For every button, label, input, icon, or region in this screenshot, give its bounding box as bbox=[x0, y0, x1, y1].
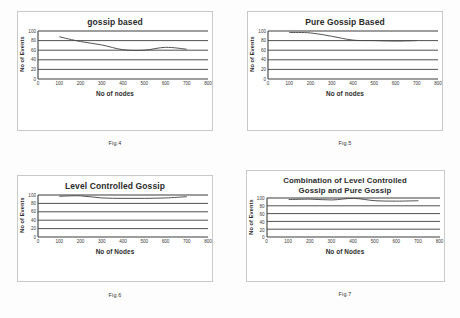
x-tick-label: 300 bbox=[98, 239, 106, 244]
x-axis-label: No of nodes bbox=[248, 90, 442, 97]
figure-caption: Fig.6 bbox=[109, 292, 122, 298]
y-axis-label: No of Events bbox=[19, 34, 25, 74]
x-tick-labels: 0100200300400500600700800 bbox=[247, 238, 446, 247]
figure-caption: Fig.5 bbox=[339, 140, 352, 146]
x-tick-label: 600 bbox=[392, 239, 400, 244]
chart-title: Combination of Level Controlled Gossip a… bbox=[247, 171, 444, 195]
plot-canvas: 0204060801000100200300400500600700800No … bbox=[18, 28, 214, 90]
x-tick-label: 700 bbox=[413, 81, 421, 86]
x-axis-label: No of Nodes bbox=[247, 248, 444, 255]
x-axis-label: No of Nodes bbox=[18, 248, 212, 255]
plot-area-wrapper: 0204060801000100200300400500600700800No … bbox=[248, 28, 442, 90]
x-tick-label: 200 bbox=[306, 239, 314, 244]
y-tick-label: 40 bbox=[31, 57, 36, 62]
x-tick-label: 0 bbox=[265, 239, 268, 244]
x-tick-label: 100 bbox=[55, 81, 63, 86]
x-tick-label: 400 bbox=[349, 239, 357, 244]
plot-canvas: 0204060801000100200300400500600700800No … bbox=[248, 28, 444, 90]
y-tick-label: 100 bbox=[258, 28, 266, 33]
y-tick-label: 60 bbox=[259, 212, 264, 217]
x-tick-label: 500 bbox=[371, 239, 379, 244]
x-tick-labels: 0100200300400500600700800 bbox=[18, 238, 214, 247]
x-tick-label: 400 bbox=[349, 81, 357, 86]
x-tick-label: 600 bbox=[162, 81, 170, 86]
plot-area-wrapper: 0204060801000100200300400500600700800No … bbox=[18, 28, 212, 90]
figure-cell-4: Combination of Level Controlled Gossip a… bbox=[230, 159, 460, 318]
plot-area-wrapper: 0204060801000100200300400500600700800No … bbox=[247, 195, 444, 248]
x-tick-label: 500 bbox=[140, 239, 148, 244]
y-tick-label: 20 bbox=[259, 227, 264, 232]
x-tick-labels: 0100200300400500600700800 bbox=[248, 80, 444, 89]
x-tick-label: 300 bbox=[328, 81, 336, 86]
y-tick-label: 60 bbox=[31, 209, 36, 214]
chart-title: gossip based bbox=[18, 12, 212, 28]
x-tick-label: 600 bbox=[392, 81, 400, 86]
data-series-line bbox=[289, 32, 417, 41]
chart-title: Pure Gossip Based bbox=[248, 12, 442, 28]
plot-canvas: 0204060801000100200300400500600700800No … bbox=[18, 192, 214, 248]
y-tick-label: 80 bbox=[31, 38, 36, 43]
figure-caption: Fig.4 bbox=[109, 140, 122, 146]
data-series-line bbox=[288, 199, 418, 202]
chart-panel-gossip-based: gossip based 020406080100010020030040050… bbox=[17, 11, 213, 131]
y-tick-label: 100 bbox=[257, 196, 265, 201]
x-tick-label: 700 bbox=[414, 239, 422, 244]
x-tick-label: 100 bbox=[285, 81, 293, 86]
chart-title-line-1: Combination of Level Controlled bbox=[247, 176, 444, 186]
y-tick-label: 100 bbox=[28, 28, 36, 33]
x-tick-label: 800 bbox=[436, 239, 444, 244]
y-axis-label: No of Events bbox=[249, 34, 255, 74]
y-tick-label: 80 bbox=[261, 38, 266, 43]
x-tick-label: 800 bbox=[434, 81, 442, 86]
x-tick-label: 300 bbox=[98, 81, 106, 86]
y-tick-label: 40 bbox=[31, 217, 36, 222]
x-tick-labels: 0100200300400500600700800 bbox=[18, 80, 214, 89]
x-tick-label: 700 bbox=[183, 81, 191, 86]
x-tick-label: 500 bbox=[140, 81, 148, 86]
x-tick-label: 0 bbox=[267, 81, 270, 86]
y-tick-label: 40 bbox=[259, 219, 264, 224]
y-axis-label: No of Events bbox=[19, 195, 25, 235]
chart-panel-pure-gossip-based: Pure Gossip Based 0204060801000100200300… bbox=[247, 11, 443, 131]
x-tick-label: 700 bbox=[183, 239, 191, 244]
data-series-line bbox=[59, 195, 187, 198]
x-tick-label: 200 bbox=[77, 239, 85, 244]
y-tick-label: 60 bbox=[261, 47, 266, 52]
x-tick-label: 800 bbox=[204, 81, 212, 86]
y-tick-label: 40 bbox=[261, 57, 266, 62]
y-tick-label: 20 bbox=[261, 67, 266, 72]
y-tick-label: 20 bbox=[31, 226, 36, 231]
document-page: gossip based 020406080100010020030040050… bbox=[0, 0, 460, 318]
chart-panel-combination-gossip: Combination of Level Controlled Gossip a… bbox=[246, 170, 445, 282]
x-tick-label: 0 bbox=[37, 239, 40, 244]
y-axis-label: No of Events bbox=[248, 197, 254, 237]
chart-title: Level Controlled Gossip bbox=[18, 176, 212, 192]
y-tick-label: 60 bbox=[31, 47, 36, 52]
x-tick-label: 200 bbox=[307, 81, 315, 86]
chart-panel-level-controlled-gossip: Level Controlled Gossip 0204060801000100… bbox=[17, 175, 213, 282]
y-tick-label: 80 bbox=[31, 201, 36, 206]
y-tick-label: 80 bbox=[259, 204, 264, 209]
figure-cell-1: gossip based 020406080100010020030040050… bbox=[0, 0, 230, 159]
y-tick-label: 100 bbox=[28, 192, 36, 197]
data-series-line bbox=[59, 36, 187, 50]
x-tick-label: 100 bbox=[284, 239, 292, 244]
y-tick-label: 20 bbox=[31, 67, 36, 72]
x-tick-label: 100 bbox=[55, 239, 63, 244]
x-tick-label: 800 bbox=[204, 239, 212, 244]
chart-title-line-2: Gossip and Pure Gossip bbox=[247, 186, 444, 196]
x-tick-label: 0 bbox=[37, 81, 40, 86]
figure-grid: gossip based 020406080100010020030040050… bbox=[0, 0, 460, 318]
x-tick-label: 400 bbox=[119, 81, 127, 86]
x-tick-label: 300 bbox=[328, 239, 336, 244]
x-tick-label: 400 bbox=[119, 239, 127, 244]
figure-caption: Fig.7 bbox=[339, 291, 352, 297]
x-tick-label: 200 bbox=[77, 81, 85, 86]
x-axis-label: No of nodes bbox=[18, 90, 212, 97]
x-tick-label: 500 bbox=[370, 81, 378, 86]
plot-area-wrapper: 0204060801000100200300400500600700800No … bbox=[18, 192, 212, 248]
x-tick-label: 600 bbox=[162, 239, 170, 244]
figure-cell-3: Level Controlled Gossip 0204060801000100… bbox=[0, 159, 230, 318]
figure-cell-2: Pure Gossip Based 0204060801000100200300… bbox=[230, 0, 460, 159]
plot-canvas: 0204060801000100200300400500600700800No … bbox=[247, 195, 446, 248]
